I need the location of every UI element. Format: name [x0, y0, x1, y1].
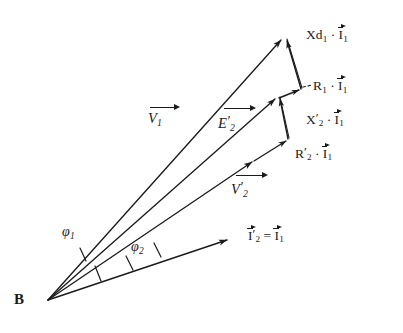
- rp2-subscript: 2: [307, 152, 312, 162]
- i2prime-subscript: 2: [255, 234, 260, 244]
- rp2-operand-vector: I: [323, 147, 328, 161]
- angle-arc-phi1-b: [80, 248, 86, 261]
- leader-dash-r1: [303, 85, 312, 87]
- xd1-operand: I: [339, 28, 344, 42]
- rp2-operand-subscript: 1: [327, 152, 332, 162]
- xd1-operand-vector: I: [339, 28, 344, 42]
- e2-symbol: E: [218, 115, 227, 131]
- vector-r1-i1: [279, 90, 299, 98]
- r1-operand-vector: I: [338, 79, 343, 93]
- label-phi1: φ1: [62, 225, 75, 242]
- xp2-operand-subscript: 1: [339, 118, 344, 128]
- r1-subscript: 1: [322, 85, 327, 95]
- v2-symbol: V: [231, 181, 240, 197]
- xd1-coefficient: Xd: [306, 27, 323, 42]
- vector-v2-prime: [48, 162, 252, 300]
- rp2-coefficient: R: [295, 146, 304, 161]
- phasor-diagram-figure: B Xd1 · I1 R1 · I1 X′2 · I1 R′2 · I1 I′2…: [0, 0, 403, 333]
- xp2-dot: ·: [327, 112, 332, 127]
- equals-sign: =: [263, 228, 271, 243]
- label-v1: V1: [148, 111, 162, 128]
- v2-subscript: 2: [243, 188, 248, 199]
- i2prime-vector: I: [248, 229, 253, 243]
- angle-arc-phi1: [95, 266, 101, 281]
- i1-subscript: 1: [279, 234, 284, 244]
- vector-arrow-icon-e2: [224, 105, 256, 111]
- label-rprime2-i1: R′2 · I1: [295, 146, 332, 163]
- r1-operand: I: [338, 79, 343, 93]
- i1-vector: I: [274, 229, 279, 243]
- label-xd1-i1: Xd1 · I1: [306, 28, 348, 44]
- r1-coefficient: R: [313, 78, 322, 93]
- v1-subscript: 1: [157, 117, 162, 128]
- label-phi2: φ2: [131, 240, 144, 257]
- i2prime-symbol: I: [248, 229, 253, 243]
- xd1-subscript: 1: [323, 34, 328, 44]
- xp2-coefficient: X: [306, 112, 316, 127]
- e2-subscript: 2: [230, 122, 235, 133]
- phi2-subscript: 2: [139, 246, 144, 256]
- label-xprime2-i1: X′2 · I1: [306, 112, 344, 129]
- v1-symbol: V: [148, 110, 157, 126]
- xp2-operand: I: [335, 113, 340, 127]
- i1-symbol: I: [274, 229, 279, 243]
- label-v2-prime: V′2: [231, 181, 248, 199]
- label-current-equality: I′2 = I1: [248, 228, 284, 245]
- phi1-subscript: 1: [70, 231, 75, 241]
- phi1-symbol: φ: [62, 224, 70, 239]
- angle-arc-phi2: [126, 256, 133, 270]
- r1-operand-subscript: 1: [343, 85, 348, 95]
- label-r1-i1: R1 · I1: [313, 79, 347, 95]
- angle-arc-phi2-b: [154, 243, 161, 257]
- xp2-subscript: 2: [319, 118, 324, 128]
- rp2-operand: I: [323, 147, 328, 161]
- vector-xd1-i1: [287, 41, 301, 89]
- xp2-operand-vector: I: [335, 113, 340, 127]
- origin-label-b: B: [14, 292, 24, 307]
- rp2-dot: ·: [315, 146, 320, 161]
- r1-dot: ·: [330, 78, 335, 93]
- lower-corner-stroke: [280, 97, 289, 138]
- phi2-symbol: φ: [131, 239, 139, 254]
- apex-corner-stroke: [287, 39, 302, 88]
- vector-arrow-icon-v2: [236, 172, 268, 178]
- label-e2-prime: E′2: [218, 115, 235, 133]
- xd1-operand-subscript: 1: [343, 34, 348, 44]
- vector-e2-prime: [48, 99, 275, 300]
- phasor-diagram-canvas: [0, 0, 403, 333]
- vector-rp2-i1: [254, 141, 286, 161]
- xd1-dot: ·: [331, 27, 336, 42]
